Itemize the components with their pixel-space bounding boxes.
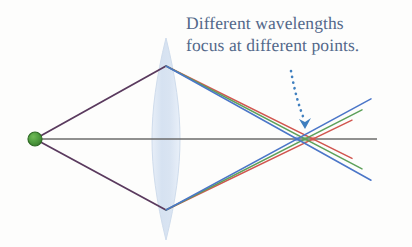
red-wavelength-rays [166,66,352,210]
blue-focus-point [295,137,300,142]
green-ray-upper [166,66,362,169]
point-source [28,132,42,146]
figure-canvas: Different wavelengths focus at different… [0,0,412,247]
point-source-dot [28,132,42,146]
dotted-arrow-head [299,118,311,129]
blue-ray-upper [166,66,371,180]
focus-point-cluster [295,136,316,141]
blue-ray-lower [166,99,371,210]
upper-incident-ray [35,66,166,139]
dotted-arrow-shaft [291,71,304,119]
blue-wavelength-rays [166,66,371,210]
red-focus-point [311,137,316,142]
green-focus-point [302,136,307,141]
green-ray-lower [166,110,362,210]
green-wavelength-rays [166,66,362,210]
dotted-arrow [291,71,311,129]
lower-incident-ray [35,139,166,210]
chromatic-aberration-diagram [0,0,412,247]
incident-rays [35,66,166,210]
